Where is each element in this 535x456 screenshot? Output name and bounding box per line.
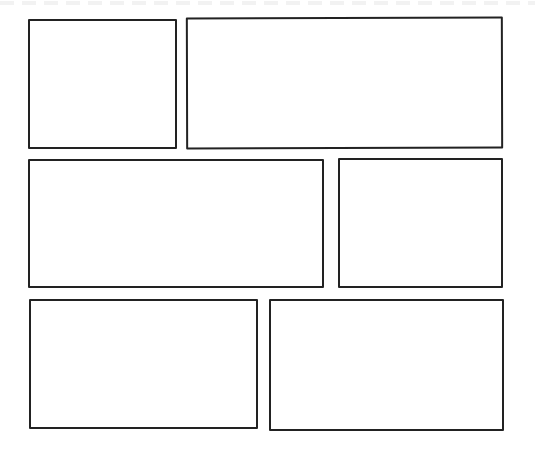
panel-row1-right bbox=[186, 17, 503, 150]
panel-row3-left bbox=[29, 299, 258, 429]
panel-row3-right bbox=[269, 299, 504, 431]
comic-page bbox=[0, 0, 535, 456]
panel-row2-left bbox=[28, 159, 324, 288]
panel-row1-left bbox=[28, 19, 177, 149]
panel-row2-right bbox=[338, 158, 503, 288]
scan-artifact bbox=[0, 1, 535, 5]
